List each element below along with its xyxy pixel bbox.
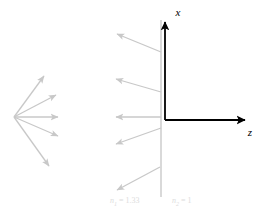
medium-left-equals: = [117,196,126,205]
x-axis-label: x [175,6,181,18]
refraction-diagram: x z n1 = 1.33n2 = 1 [0,0,267,223]
figure-background [0,0,267,223]
medium-right-value: 1 [188,196,192,205]
medium-right-equals: = [179,196,188,205]
medium-left-value: 1.33 [126,196,140,205]
z-axis-label: z [247,126,253,138]
